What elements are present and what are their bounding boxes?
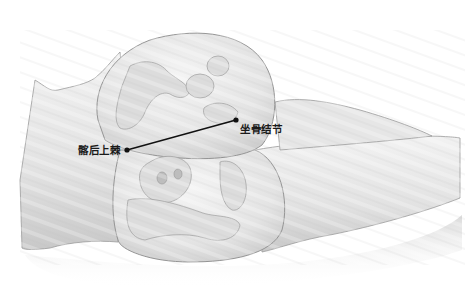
ischial-marker — [233, 117, 238, 122]
illustration-canvas — [0, 0, 475, 296]
label-posterior-superior-iliac-spine: 髂后上棘 — [78, 145, 120, 156]
anatomical-illustration: 髂后上棘 坐骨结节 — [0, 0, 475, 296]
label-ischial-tuberosity: 坐骨结节 — [240, 124, 282, 135]
psis-marker — [124, 147, 129, 152]
